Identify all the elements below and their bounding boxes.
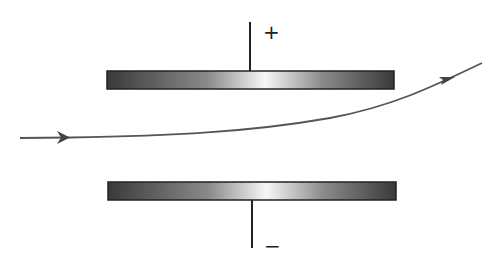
deflection-diagram: + −: [0, 0, 496, 266]
positive-sign: +: [263, 20, 280, 44]
bottom-plate-group: −: [108, 182, 396, 258]
negative-sign: −: [264, 234, 281, 258]
top-plate-group: +: [107, 20, 394, 89]
arrowhead-icon: [439, 77, 455, 85]
bottom-plate: [108, 182, 396, 200]
top-plate: [107, 71, 394, 89]
